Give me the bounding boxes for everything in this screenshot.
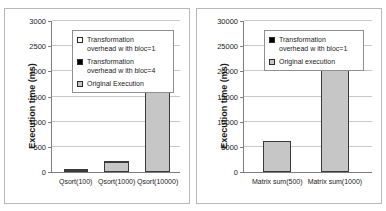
y-tick-label: 0 (234, 168, 238, 177)
y-axis-title-right: Execution time (ms) (219, 41, 229, 171)
legend-item-overhead-bloc4: Transformation overhead w ith bloc=4 (77, 57, 168, 75)
y-tick-label: 1500 (29, 92, 46, 101)
legend-swatch-white-icon (77, 37, 83, 43)
legend-item-overhead-bloc1: Transformation overhead w ith bloc=1 (77, 35, 168, 53)
gridline: 10000 (244, 121, 372, 122)
legend-label-line1: Transformation (87, 36, 134, 43)
y-tick-label: 20000 (217, 67, 238, 76)
bar-segment-original (64, 170, 88, 172)
legend-item-overhead-bloc1: Transformation overhead w ith bloc=1 (269, 35, 358, 53)
x-tick-label: Qsort(10000) (137, 178, 178, 185)
legend-left: Transformation overhead w ith bloc=1 Tra… (72, 30, 174, 93)
legend-item-original-execution: Original Execution (77, 79, 168, 88)
x-tick-label: Qsort(1000) (98, 178, 135, 185)
y-tick-label: 5000 (221, 142, 238, 151)
bar-segment-original (104, 162, 128, 172)
legend-swatch-gray-icon (269, 59, 275, 65)
x-tick-label: Qsort(100) (59, 178, 92, 185)
gridline: 15000 (244, 96, 372, 97)
y-tick-label: 2000 (29, 67, 46, 76)
legend-swatch-black-icon (77, 59, 83, 65)
legend-label-line2: overhead w ith bloc=4 (87, 67, 155, 74)
gridline: 30000 (244, 20, 372, 21)
x-tick-label: Matrix sum(500) (252, 178, 303, 185)
figure-row: Execution time (ms) 3000 2500 2000 1500 (0, 0, 386, 211)
y-tick-label: 3000 (29, 17, 46, 26)
gridline: 3000 (52, 20, 180, 21)
y-tick-label: 2500 (29, 42, 46, 51)
legend-label-line2: overhead w ith bloc=1 (87, 45, 155, 52)
legend-label-line1: Transformation (279, 36, 326, 43)
y-tick-label: 30000 (217, 17, 238, 26)
y-tick-label: 25000 (217, 42, 238, 51)
x-tick-label: Matrix sum(1000) (308, 178, 362, 185)
legend-swatch-gray-icon (77, 81, 83, 87)
legend-label-line1: Original Execution (87, 79, 144, 88)
bar-qsort-1000: Qsort(1000) (104, 161, 128, 172)
legend-label-line1: Transformation (87, 58, 134, 65)
plot-area-left: 3000 2500 2000 1500 1000 500 (51, 21, 180, 173)
bar-qsort-100: Qsort(100) (64, 169, 88, 172)
legend-right: Transformation overhead w ith bloc=1 Ori… (264, 30, 364, 71)
y-tick-label: 10000 (217, 117, 238, 126)
plot-area-right: 30000 25000 20000 15000 10000 5000 (243, 21, 372, 173)
y-tick-label: 0 (42, 168, 46, 177)
legend-item-original-execution: Original execution (269, 57, 358, 66)
legend-label-line2: overhead w ith bloc=1 (279, 45, 347, 52)
y-tick-label: 15000 (217, 92, 238, 101)
legend-label-line1: Original execution (279, 57, 335, 66)
chart-qsort: Execution time (ms) 3000 2500 2000 1500 (4, 8, 190, 204)
y-tick-label: 500 (33, 142, 46, 151)
y-axis-title-left: Execution time (ms) (27, 41, 37, 171)
y-tick-label: 1000 (29, 117, 46, 126)
legend-swatch-black-icon (269, 37, 275, 43)
chart-matrix-sum: Execution time (ms) 30000 25000 20000 15… (196, 8, 382, 204)
bar-matrix-sum-500: Matrix sum(500) (263, 141, 291, 172)
bar-segment-original (263, 141, 291, 172)
